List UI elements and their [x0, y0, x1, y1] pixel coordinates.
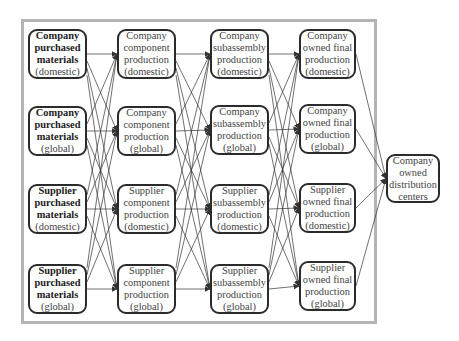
node-label-line: production — [124, 209, 169, 221]
node-label-line: Supplier — [38, 265, 76, 277]
node-label-line: subassembly — [213, 118, 266, 130]
node-company-subassembly-production-domestic: Company subassembly production (domestic… — [210, 29, 269, 79]
node-label-line: production — [305, 54, 350, 66]
node-label-line: Company — [36, 107, 79, 119]
node-label-line: purchased — [34, 277, 80, 289]
node-label-line: (domestic) — [305, 66, 349, 78]
node-label-line: purchased — [34, 197, 80, 209]
node-label-line: component — [123, 277, 169, 289]
node-label-line: production — [124, 54, 169, 66]
node-label-line: materials — [37, 131, 79, 143]
node-label-line: subassembly — [213, 277, 266, 289]
node-label-line: Company — [219, 106, 259, 118]
node-label-line: production — [217, 289, 262, 301]
node-label-line: Supplier — [310, 184, 345, 196]
node-label-line: (global) — [223, 301, 256, 313]
node-label-line: owned final — [303, 274, 352, 286]
node-label-line: Company — [307, 30, 347, 42]
node-label-line: (global) — [41, 143, 74, 155]
node-company-component-production-domestic: Company component production (domestic) — [117, 29, 176, 79]
node-label-line: (domestic) — [35, 221, 79, 233]
node-label-line: Supplier — [129, 265, 164, 277]
node-label-line: owned final — [303, 42, 352, 54]
node-label-line: component — [123, 197, 169, 209]
node-label-line: owned final — [303, 117, 352, 129]
node-label-line: component — [123, 42, 169, 54]
node-label-line: production — [124, 289, 169, 301]
node-label-line: owned — [399, 167, 427, 179]
node-label-line: subassembly — [213, 197, 266, 209]
node-label-line: Company — [219, 30, 259, 42]
node-company-component-production-global: Company component production (global) — [117, 106, 176, 156]
node-label-line: subassembly — [213, 42, 266, 54]
node-supplier-component-production-domestic: Supplier component production (domestic) — [117, 184, 176, 234]
node-label-line: (domestic) — [217, 66, 261, 78]
node-supplier-owned-final-production-domestic: Supplier owned final production (domesti… — [299, 183, 356, 233]
node-label-line: production — [305, 208, 350, 220]
node-label-line: (global) — [311, 141, 344, 153]
node-supplier-subassembly-production-global: Supplier subassembly production (global) — [210, 264, 269, 314]
node-label-line: production — [217, 209, 262, 221]
node-label-line: Supplier — [222, 265, 257, 277]
node-label-line: purchased — [34, 42, 80, 54]
node-supplier-component-production-global: Supplier component production (global) — [117, 264, 176, 314]
node-label-line: owned final — [303, 196, 352, 208]
node-label-line: (global) — [130, 143, 163, 155]
node-label-line: materials — [37, 289, 79, 301]
node-supplier-purchased-materials-global: Supplier purchased materials (global) — [28, 264, 87, 314]
node-label-line: (domestic) — [35, 66, 79, 78]
node-label-line: production — [305, 286, 350, 298]
node-label-line: Company — [393, 155, 433, 167]
node-company-owned-distribution-centers: Company owned distribution centers — [386, 154, 440, 203]
node-label-line: production — [305, 129, 350, 141]
node-label-line: (global) — [41, 301, 74, 313]
node-company-purchased-materials-global: Company purchased materials (global) — [28, 106, 87, 156]
node-label-line: Supplier — [129, 185, 164, 197]
node-label-line: production — [124, 131, 169, 143]
node-label-line: (domestic) — [305, 220, 349, 232]
node-company-owned-final-production-domestic: Company owned final production (domestic… — [299, 29, 356, 79]
node-label-line: Company — [126, 30, 166, 42]
node-label-line: centers — [398, 191, 427, 203]
node-label-line: (global) — [311, 298, 344, 310]
node-label-line: purchased — [34, 119, 80, 131]
node-company-purchased-materials-domestic: Company purchased materials (domestic) — [28, 29, 87, 79]
node-label-line: Supplier — [38, 185, 76, 197]
node-company-owned-final-production-global: Company owned final production (global) — [299, 104, 356, 154]
node-supplier-owned-final-production-global: Supplier owned final production (global) — [299, 261, 356, 311]
node-label-line: (global) — [130, 301, 163, 313]
node-label-line: component — [123, 119, 169, 131]
node-label-line: Supplier — [310, 262, 345, 274]
node-label-line: distribution — [389, 179, 437, 191]
node-label-line: Company — [126, 107, 166, 119]
node-label-line: production — [217, 130, 262, 142]
node-supplier-purchased-materials-domestic: Supplier purchased materials (domestic) — [28, 184, 87, 234]
node-label-line: materials — [37, 209, 79, 221]
node-label-line: (domestic) — [124, 66, 168, 78]
node-label-line: (domestic) — [217, 221, 261, 233]
node-label-line: (global) — [223, 142, 256, 154]
node-label-line: (domestic) — [124, 221, 168, 233]
node-company-subassembly-production-global: Company subassembly production (global) — [210, 105, 269, 155]
node-label-line: Company — [307, 105, 347, 117]
node-label-line: materials — [37, 54, 79, 66]
node-label-line: Supplier — [222, 185, 257, 197]
node-label-line: Company — [36, 30, 79, 42]
node-supplier-subassembly-production-domestic: Supplier subassembly production (domesti… — [210, 184, 269, 234]
node-label-line: production — [217, 54, 262, 66]
